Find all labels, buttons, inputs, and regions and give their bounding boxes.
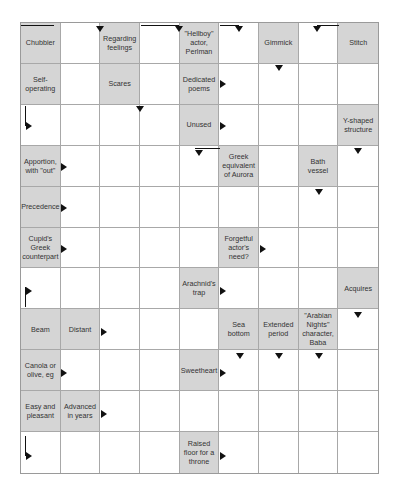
- down-arrow-r8c6-icon: [275, 353, 283, 359]
- right-arrow-r9c1-icon: [101, 410, 107, 418]
- clue-text: Apportion, with "out": [21, 157, 60, 175]
- answer-cell-r9c3[interactable]: [140, 391, 180, 432]
- clue-text: Arachnid's trap: [180, 279, 219, 297]
- answer-cell-r7c4[interactable]: [180, 309, 220, 350]
- answer-cell-r10c2[interactable]: [100, 432, 140, 473]
- clue-text: Gimmick: [263, 38, 293, 47]
- clue-cell: Distant: [61, 309, 101, 350]
- answer-cell-r8c2[interactable]: [100, 350, 140, 391]
- answer-cell-r1c3[interactable]: [140, 64, 180, 105]
- clue-text: Distant: [68, 325, 92, 334]
- clue-cell: Beam: [21, 309, 61, 350]
- down-arrow-r8c5-icon: [236, 353, 244, 359]
- right-arrow-r5c5-icon: [260, 245, 266, 253]
- answer-cell-r5c3[interactable]: [140, 228, 180, 269]
- clue-text: Scares: [107, 79, 131, 88]
- answer-cell-r9c7[interactable]: [299, 391, 339, 432]
- answer-cell-r4c2[interactable]: [100, 187, 140, 228]
- answer-cell-r1c7[interactable]: [299, 64, 339, 105]
- answer-cell-r9c5[interactable]: [219, 391, 259, 432]
- clue-cell: "Arabian Nights" character, Baba: [299, 309, 339, 350]
- clue-text: Y-shaped structure: [338, 116, 378, 134]
- clue-cell: Self-operating: [21, 64, 61, 105]
- clue-cell: Sea bottom: [219, 309, 259, 350]
- answer-cell-r4c3[interactable]: [140, 187, 180, 228]
- down-arrow-r0c3-icon: [175, 26, 183, 32]
- arrow-line: [195, 148, 220, 149]
- answer-cell-r5c4[interactable]: [180, 228, 220, 269]
- answer-cell-r10c6[interactable]: [259, 432, 299, 473]
- answer-cell-r3c3[interactable]: [140, 146, 180, 187]
- down-arrow-r0c1-icon: [96, 26, 104, 32]
- clue-text: Cupid's Greek counterpart: [21, 234, 60, 261]
- answer-cell-r3c6[interactable]: [259, 146, 299, 187]
- answer-cell-r1c8[interactable]: [338, 64, 378, 105]
- clue-cell: Greek equivalent of Aurora: [219, 146, 259, 187]
- clue-cell: Raised floor for a throne: [180, 432, 220, 473]
- answer-cell-r10c1[interactable]: [61, 432, 101, 473]
- answer-cell-r2c7[interactable]: [299, 105, 339, 146]
- clue-cell: Canola or olive, eg: [21, 350, 61, 391]
- answer-cell-r6c6[interactable]: [259, 268, 299, 309]
- answer-cell-r0c1[interactable]: [61, 23, 101, 64]
- clue-text: Sea bottom: [219, 320, 258, 338]
- answer-cell-r2c3[interactable]: [140, 105, 180, 146]
- right-arrow-r2c4-icon: [220, 122, 226, 130]
- answer-cell-r5c8[interactable]: [338, 228, 378, 269]
- arrow-line: [21, 25, 54, 26]
- answer-cell-r4c6[interactable]: [259, 187, 299, 228]
- clue-cell: Precedence: [21, 187, 61, 228]
- clue-cell: Apportion, with "out": [21, 146, 61, 187]
- clue-cell: Chubbier: [21, 23, 61, 64]
- right-arrow-r7c1-icon: [101, 328, 107, 336]
- answer-cell-r4c4[interactable]: [180, 187, 220, 228]
- clue-text: Sweetheart: [180, 366, 218, 375]
- answer-cell-r10c3[interactable]: [140, 432, 180, 473]
- answer-cell-r6c1[interactable]: [61, 268, 101, 309]
- answer-cell-r2c2[interactable]: [100, 105, 140, 146]
- clue-text: Easy and pleasant: [21, 402, 60, 420]
- down-arrow-r3c8-icon: [354, 148, 362, 154]
- right-arrow-r1c4-icon: [220, 80, 226, 88]
- crossword-grid: ChubbierRegarding feelings"Hellboy" acto…: [20, 22, 379, 474]
- clue-cell: Dedicated poems: [180, 64, 220, 105]
- answer-cell-r3c2[interactable]: [100, 146, 140, 187]
- answer-cell-r5c7[interactable]: [299, 228, 339, 269]
- clue-text: Advanced in years: [61, 402, 100, 420]
- clue-text: Chubbier: [25, 38, 56, 47]
- answer-cell-r5c2[interactable]: [100, 228, 140, 269]
- right-arrow-r6c4-icon: [220, 287, 226, 295]
- answer-cell-r1c1[interactable]: [61, 64, 101, 105]
- answer-cell-r10c8[interactable]: [338, 432, 378, 473]
- down-arrow-r2c2-icon: [136, 106, 144, 112]
- right-arrow-r8c4-icon: [220, 369, 226, 377]
- down-arrow-r0c7-icon: [313, 26, 321, 32]
- answer-cell-r2c6[interactable]: [259, 105, 299, 146]
- answer-cell-r6c2[interactable]: [100, 268, 140, 309]
- answer-cell-r10c7[interactable]: [299, 432, 339, 473]
- clue-cell: "Hellboy" actor, Perlman: [180, 23, 220, 64]
- down-arrow-r1c6-icon: [275, 65, 283, 71]
- answer-cell-r7c3[interactable]: [140, 309, 180, 350]
- answer-cell-r9c6[interactable]: [259, 391, 299, 432]
- clue-text: Raised floor for a throne: [180, 439, 219, 466]
- clue-text: Unused: [186, 120, 213, 129]
- clue-cell: Scares: [100, 64, 140, 105]
- answer-cell-r4c5[interactable]: [219, 187, 259, 228]
- clue-cell: Easy and pleasant: [21, 391, 61, 432]
- answer-cell-r0c3[interactable]: [140, 23, 180, 64]
- answer-cell-r2c1[interactable]: [61, 105, 101, 146]
- answer-cell-r6c7[interactable]: [299, 268, 339, 309]
- answer-cell-r6c3[interactable]: [140, 268, 180, 309]
- clue-text: Self-operating: [21, 75, 60, 93]
- down-arrow-r7c8-icon: [354, 312, 362, 318]
- answer-cell-r4c8[interactable]: [338, 187, 378, 228]
- clue-cell: Stitch: [338, 23, 378, 64]
- answer-cell-r9c8[interactable]: [338, 391, 378, 432]
- down-arrow-r8c7-icon: [315, 353, 323, 359]
- right-arrow-r4c0-icon: [61, 204, 67, 212]
- clue-cell: Sweetheart: [180, 350, 220, 391]
- answer-cell-r8c3[interactable]: [140, 350, 180, 391]
- answer-cell-r9c4[interactable]: [180, 391, 220, 432]
- answer-cell-r8c8[interactable]: [338, 350, 378, 391]
